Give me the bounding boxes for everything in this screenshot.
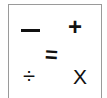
multiply-icon: X [73, 66, 87, 87]
divide-icon: ÷ [23, 65, 35, 87]
equals-icon: = [44, 44, 58, 67]
minus-icon [21, 29, 40, 32]
plus-icon: + [68, 15, 82, 39]
